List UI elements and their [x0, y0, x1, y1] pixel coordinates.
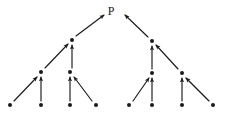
- node-dot: [68, 70, 72, 74]
- diagram-svg: [0, 0, 244, 124]
- edge-arrow: [133, 78, 149, 101]
- node-dot: [127, 103, 131, 107]
- edge-arrow: [45, 44, 68, 68]
- diagram-canvas: P: [0, 0, 244, 124]
- nodes-group: [8, 38, 215, 107]
- node-dot: [180, 103, 184, 107]
- node-dot: [68, 103, 72, 107]
- edge-arrow: [74, 77, 92, 101]
- node-dot: [211, 103, 215, 107]
- edges-group: [14, 15, 209, 101]
- node-dot: [39, 103, 43, 107]
- edge-arrow: [76, 15, 104, 36]
- root-node-label: P: [108, 5, 115, 17]
- node-dot: [70, 38, 74, 42]
- edge-arrow: [14, 77, 37, 101]
- edge-arrow: [125, 15, 148, 37]
- node-dot: [8, 103, 12, 107]
- node-dot: [150, 71, 154, 75]
- edge-arrow: [186, 78, 209, 101]
- node-dot: [150, 103, 154, 107]
- node-dot: [39, 70, 43, 74]
- node-dot: [180, 71, 184, 75]
- node-dot: [150, 39, 154, 43]
- edge-arrow: [156, 45, 178, 69]
- node-dot: [94, 103, 98, 107]
